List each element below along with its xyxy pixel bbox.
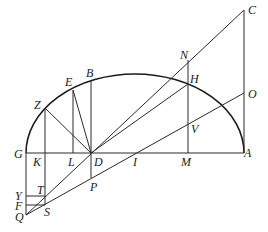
label-Q: Q [15, 210, 24, 224]
label-C: C [248, 3, 257, 17]
line-QC [26, 10, 244, 215]
semi-ellipse-arc [26, 74, 244, 153]
label-N: N [179, 48, 189, 62]
label-G: G [14, 147, 23, 161]
label-T: T [37, 183, 45, 197]
label-V: V [191, 122, 200, 136]
geometry-diagram: C N H O V E B Z G K L D I M A P Y T F S … [0, 0, 268, 232]
line-QO [26, 93, 244, 215]
line-DH [91, 84, 188, 153]
label-Z: Z [34, 98, 41, 112]
label-M: M [180, 155, 192, 169]
label-O: O [248, 87, 257, 101]
label-A: A [243, 146, 252, 160]
label-L: L [67, 155, 75, 169]
label-K: K [32, 155, 42, 169]
label-D: D [93, 155, 103, 169]
label-I: I [132, 155, 138, 169]
label-S: S [44, 205, 50, 219]
label-E: E [64, 75, 73, 89]
label-H: H [189, 72, 200, 86]
label-P: P [89, 180, 98, 194]
label-B: B [86, 66, 94, 80]
